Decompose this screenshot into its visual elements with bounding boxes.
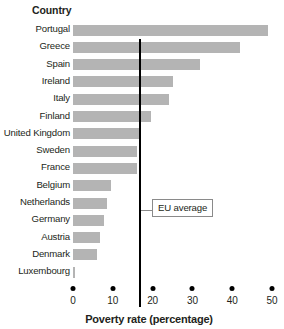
bar-belgium (73, 180, 111, 191)
plot-area: PortugalGreeceSpainIrelandItalyFinlandUn… (0, 22, 284, 284)
x-tick-dot-50 (270, 286, 275, 291)
bar-label-denmark: Denmark (32, 248, 70, 259)
x-tick-label-20: 20 (140, 295, 166, 306)
x-tick-dot-10 (110, 286, 115, 291)
x-tick-label-40: 40 (219, 295, 245, 306)
bar-france (73, 163, 137, 174)
bar-united-kingdom (73, 128, 139, 139)
x-tick-label-10: 10 (100, 295, 126, 306)
bar-label-greece: Greece (39, 40, 70, 51)
x-tick-label-50: 50 (259, 295, 284, 306)
x-tick-dot-40 (230, 286, 235, 291)
bar-label-italy: Italy (53, 92, 70, 103)
bar-row: Denmark (0, 247, 284, 264)
bar-row: Luxembourg (0, 264, 284, 281)
bar-label-germany: Germany (32, 213, 70, 224)
bar-germany (73, 215, 104, 226)
bar-row: Sweden (0, 143, 284, 160)
bar-row: United Kingdom (0, 126, 284, 143)
bar-row: Belgium (0, 178, 284, 195)
bar-sweden (73, 146, 137, 157)
bar-greece (73, 42, 240, 53)
bar-italy (73, 94, 169, 105)
bar-row: France (0, 160, 284, 177)
eu-average-reference-line (139, 39, 141, 307)
bar-spain (73, 59, 200, 70)
bar-label-austria: Austria (41, 231, 70, 242)
bar-row: Spain (0, 57, 284, 74)
bar-label-spain: Spain (46, 58, 70, 69)
bar-label-sweden: Sweden (36, 144, 70, 155)
bar-label-finland: Finland (40, 110, 70, 121)
bar-row: Finland (0, 109, 284, 126)
x-tick-dot-30 (190, 286, 195, 291)
x-tick-label-30: 30 (179, 295, 205, 306)
bar-row: Italy (0, 91, 284, 108)
bar-row: Austria (0, 230, 284, 247)
bar-denmark (73, 249, 97, 260)
bar-row: Ireland (0, 74, 284, 91)
x-axis-title: Poverty rate (percentage) (0, 313, 284, 325)
bar-luxembourg (73, 267, 75, 278)
x-axis: 01020304050 Poverty rate (percentage) (0, 284, 284, 329)
bar-label-ireland: Ireland (42, 75, 70, 86)
x-tick-dot-20 (150, 286, 155, 291)
bar-row: Portugal (0, 22, 284, 39)
eu-average-callout-label: EU average (152, 199, 213, 217)
bar-row: Greece (0, 39, 284, 56)
x-tick-label-0: 0 (60, 295, 86, 306)
bar-netherlands (73, 198, 107, 209)
bar-label-belgium: Belgium (36, 179, 70, 190)
bar-label-france: France (41, 161, 70, 172)
country-column-header: Country (32, 4, 72, 16)
eu-average-leader-line (141, 210, 152, 211)
poverty-rate-bar-chart: Country PortugalGreeceSpainIrelandItalyF… (0, 0, 284, 329)
bar-label-netherlands: Netherlands (20, 196, 70, 207)
bar-label-luxembourg: Luxembourg (18, 265, 70, 276)
bar-austria (73, 232, 100, 243)
bar-label-portugal: Portugal (35, 23, 70, 34)
x-tick-dot-0 (71, 286, 76, 291)
bar-label-united-kingdom: United Kingdom (4, 127, 70, 138)
bar-ireland (73, 76, 173, 87)
bar-portugal (73, 25, 268, 36)
bar-row: Germany (0, 212, 284, 229)
